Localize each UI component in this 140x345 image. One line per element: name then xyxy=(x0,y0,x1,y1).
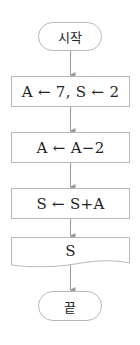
output-document-label: S xyxy=(11,238,130,263)
update-s-process-label: S ← S+A xyxy=(11,188,130,219)
init-process-label: A ← 7, S ← 2 xyxy=(11,76,130,107)
end-terminal-label: 끝 xyxy=(38,291,102,321)
update-a-process-label: A ← A−2 xyxy=(11,132,130,163)
start-terminal-label: 시작 xyxy=(38,22,102,51)
flowchart: 시작 A ← 7, S ← 2 A ← A−2 S ← S+A S 끝 xyxy=(0,0,140,345)
